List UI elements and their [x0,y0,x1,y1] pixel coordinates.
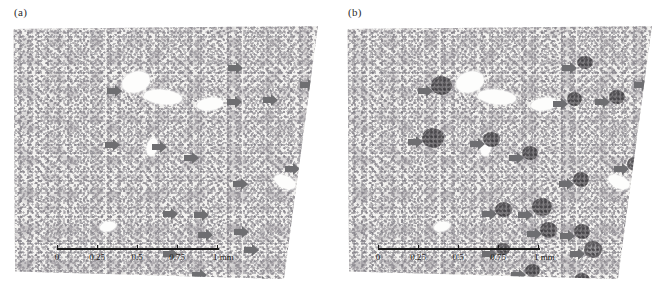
lesion-pointer-arrow-icon [285,163,300,175]
lesion-pointer-arrow-icon [482,208,497,220]
lesion-pointer-arrow-icon [408,136,423,148]
metastatic-lesion [483,132,500,147]
metastatic-lesion [431,76,452,95]
metastatic-lesion [577,56,593,69]
scale-tick-3: 0.75 [490,252,506,262]
scale-tick-2: 0.5 [131,252,142,262]
scale-tick-2: 0.5 [452,252,463,262]
lesion-pointer-arrow-icon [553,98,568,110]
lesion-pointer-arrow-icon [198,229,213,241]
metastatic-lesion [532,198,552,216]
figure-histology-panels: (a) 0 [0,0,668,287]
lesion-pointer-arrow-icon [254,276,269,279]
metastatic-lesion [573,172,589,187]
scale-tick-0: 0 [376,252,381,262]
lesion-pointer-arrow-icon [105,139,120,151]
panel-a: (a) 0 [0,0,334,287]
lesion-pointer-arrow-icon [559,178,574,190]
scale-end-label: 1 mm [213,252,234,262]
panel-a-label: (a) [14,6,27,18]
metastatic-lesion [648,73,655,86]
lesion-pointer-arrow-icon [511,269,526,279]
scale-tick-0: 0 [55,252,60,262]
lesion-pointer-arrow-icon [470,138,485,150]
lesion-pointer-arrow-icon [227,96,242,108]
metastatic-lesion [422,128,444,148]
metastatic-lesion [609,90,625,104]
lesion-pointer-arrow-icon [418,85,433,97]
scale-tick-3: 0.75 [169,252,185,262]
lesion-pointer-arrow-icon [595,96,610,108]
lesion-pointer-arrow-icon [300,79,315,91]
lesion-pointer-arrow-icon [562,62,577,74]
tissue-texture-overlay [346,26,655,279]
lesion-pointer-arrow-icon [194,209,209,221]
lesion-pointer-arrow-icon [244,244,259,256]
lesion-pointer-arrow-icon [184,152,199,164]
metastatic-lesion [567,92,582,106]
scale-end-label: 1 mm [534,252,555,262]
lesion-pointer-arrow-icon [263,94,278,106]
metastatic-lesion [540,222,557,238]
lesion-pointer-arrow-icon [614,163,629,175]
scale-tick-1: 0.25 [89,252,105,262]
scalebar-line [378,248,540,250]
scalebar-line [57,248,219,250]
lesion-pointer-arrow-icon [509,152,524,164]
lesion-pointer-arrow-icon [152,141,167,153]
lesion-pointer-arrow-icon [233,178,248,190]
metastatic-lesion [495,202,512,217]
lesion-pointer-arrow-icon [570,248,585,260]
lesion-pointer-arrow-icon [192,269,207,279]
lesion-pointer-arrow-icon [107,85,122,97]
lesion-pointer-arrow-icon [228,62,243,74]
panel-b-label: (b) [348,6,362,18]
lesion-pointer-arrow-icon [518,209,533,221]
metastatic-lesion [584,241,602,258]
metastatic-lesion [525,264,540,277]
metastatic-lesion [522,146,538,160]
metastatic-lesion [627,157,642,171]
metastatic-lesion [574,224,590,239]
panel-a-micrograph: 0 0.25 0.5 0.75 1 mm [12,26,321,279]
panel-b: (b) 0 0.25 [334,0,668,287]
lesion-pointer-arrow-icon [560,230,575,242]
panel-b-micrograph: 0 0.25 0.5 0.75 1 mm [346,26,655,279]
lesion-pointer-arrow-icon [634,79,649,91]
lesion-pointer-arrow-icon [527,228,542,240]
lesion-pointer-arrow-icon [163,208,178,220]
lesion-pointer-arrow-icon [234,226,249,238]
scale-tick-1: 0.25 [410,252,426,262]
